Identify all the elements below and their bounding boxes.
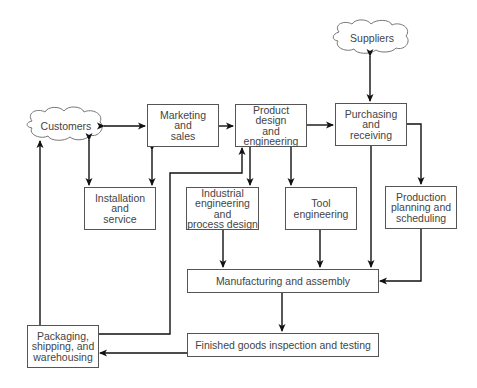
industrial-engineering-label: Industrial engineering and process desig…	[187, 188, 258, 230]
marketing-label: Marketing and sales	[160, 110, 206, 142]
tool-engineering-node: Tool engineering	[285, 187, 357, 230]
packaging-node: Packaging, shipping, and warehousing	[27, 325, 99, 368]
installation-label: Installation and service	[95, 193, 145, 225]
industrial-engineering-node: Industrial engineering and process desig…	[186, 187, 259, 230]
manufacturing-node: Manufacturing and assembly	[187, 269, 379, 293]
production-planning-label: Production planning and scheduling	[391, 192, 451, 224]
manufacturing-label: Manufacturing and assembly	[216, 276, 350, 287]
purchasing-label: Purchasing and receiving	[345, 109, 398, 141]
product-design-node: Product design and engineering	[235, 104, 307, 147]
purchasing-node: Purchasing and receiving	[335, 103, 407, 146]
flowchart: Customers Suppliers Marketing and sales …	[0, 0, 477, 388]
installation-node: Installation and service	[84, 187, 156, 230]
packaging-label: Packaging, shipping, and warehousing	[32, 331, 94, 363]
customers-node: Customers	[30, 114, 102, 138]
inspection-node: Finished goods inspection and testing	[187, 333, 379, 357]
suppliers-node: Suppliers	[336, 26, 408, 50]
tool-engineering-label: Tool engineering	[294, 198, 349, 219]
production-planning-node: Production planning and scheduling	[385, 186, 457, 229]
product-design-label: Product design and engineering	[236, 105, 306, 147]
marketing-node: Marketing and sales	[147, 104, 219, 147]
inspection-label: Finished goods inspection and testing	[195, 340, 371, 351]
